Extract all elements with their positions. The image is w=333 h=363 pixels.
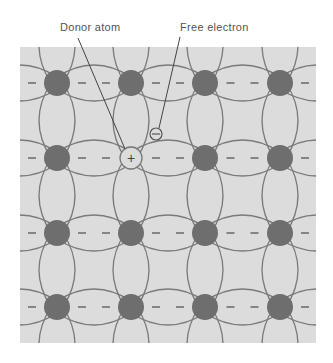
silicon-atom-icon [192, 145, 218, 171]
silicon-atom-icon [44, 145, 70, 171]
silicon-atom-icon [192, 220, 218, 246]
silicon-atom-icon [118, 220, 144, 246]
silicon-atom-icon [192, 70, 218, 96]
silicon-lattice-diagram: + [0, 0, 333, 363]
silicon-atom-icon [44, 220, 70, 246]
silicon-atom-icon [267, 294, 293, 320]
svg-text:+: + [127, 150, 135, 166]
silicon-atom-icon [44, 294, 70, 320]
silicon-atom-icon [118, 70, 144, 96]
silicon-atom-icon [267, 220, 293, 246]
silicon-atom-icon [267, 145, 293, 171]
silicon-atom-icon [118, 294, 144, 320]
silicon-atom-icon [192, 294, 218, 320]
silicon-atom-icon [44, 70, 70, 96]
silicon-atom-icon [267, 70, 293, 96]
